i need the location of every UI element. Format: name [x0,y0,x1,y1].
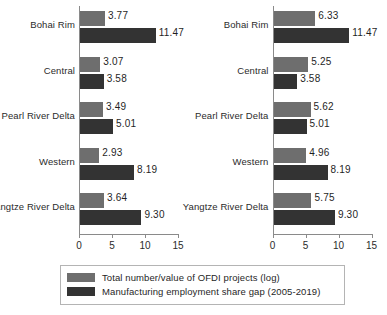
right-plot-area: 051015Bohai Rim6.3311.47Central5.253.58P… [194,0,387,258]
bar-ofdi [274,148,307,163]
bar-group: Pearl River Delta5.625.01 [194,97,387,141]
x-axis-tick-label: 15 [366,240,377,251]
category-label: Bohai Rim [224,19,269,30]
bar-ofdi [80,148,99,163]
left-plot-area: 051015Bohai Rim3.7711.47Central3.073.58P… [0,0,194,258]
category-label: Bohai Rim [30,19,75,30]
bar-ofdi [80,102,103,117]
bar-employment-gap [274,165,328,180]
x-axis-tick-label: 10 [139,240,150,251]
x-axis-tick-label: 0 [76,240,82,251]
bar-employment-gap [274,74,298,89]
legend-swatch-ofdi [67,273,95,282]
bar-ofdi [274,57,309,72]
bar-ofdi [80,11,105,26]
bar-value-label: 3.58 [300,73,320,84]
chart-legend: Total number/value of OFDI projects (log… [60,265,345,305]
bar-value-label: 8.19 [331,164,351,175]
bar-employment-gap [274,28,350,43]
bar-group: Western2.938.19 [0,143,194,187]
category-label: Pearl River Delta [195,110,269,121]
x-axis-tick-label: 5 [109,240,115,251]
bar-value-label: 8.19 [137,164,157,175]
right-panel: 051015Bohai Rim6.3311.47Central5.253.58P… [194,0,387,258]
bar-value-label: 3.49 [106,101,126,112]
bar-ofdi [274,193,312,208]
x-axis-tick [145,234,146,238]
bar-group: Yangtze River Delta5.759.30 [194,188,387,232]
bar-employment-gap [80,119,113,134]
x-axis-tick [112,234,113,238]
x-axis-tick-label: 5 [303,240,309,251]
legend-item-employment-gap: Manufacturing employment share gap (2005… [67,285,338,298]
x-axis-tick [339,234,340,238]
legend-swatch-employment-gap [67,287,95,296]
bar-employment-gap [274,119,307,134]
left-axis-horizontal [79,234,179,235]
bar-group: Bohai Rim6.3311.47 [194,6,387,50]
bar-group: Bohai Rim3.7711.47 [0,6,194,50]
bar-ofdi [80,193,104,208]
category-label: Western [39,156,75,167]
figure-caption [4,306,384,315]
chart-figure: 051015Bohai Rim3.7711.47Central3.073.58P… [0,0,387,315]
legend-label-ofdi: Total number/value of OFDI projects (log… [102,272,280,283]
bar-value-label: 3.58 [107,73,127,84]
bar-employment-gap [80,28,156,43]
category-label: Yangtze River Delta [0,201,75,212]
x-axis-tick [273,234,274,238]
bar-value-label: 6.33 [318,10,338,21]
bar-value-label: 11.47 [159,27,184,38]
bar-value-label: 3.07 [103,56,123,67]
bar-value-label: 9.30 [338,209,358,220]
category-label: Central [237,65,268,76]
bar-group: Pearl River Delta3.495.01 [0,97,194,141]
x-axis-tick-label: 15 [172,240,183,251]
category-label: Yangtze River Delta [183,201,269,212]
right-axis-horizontal [273,234,373,235]
category-label: Pearl River Delta [1,110,75,121]
bar-employment-gap [80,210,141,225]
bar-group: Central3.073.58 [0,52,194,96]
legend-label-employment-gap: Manufacturing employment share gap (2005… [102,286,320,297]
x-axis-tick [372,234,373,238]
bar-value-label: 9.30 [144,209,164,220]
bar-value-label: 5.01 [310,118,330,129]
bar-value-label: 2.93 [102,147,122,158]
bar-value-label: 5.01 [116,118,136,129]
category-label: Western [233,156,269,167]
legend-item-ofdi: Total number/value of OFDI projects (log… [67,271,338,284]
bar-group: Western4.968.19 [194,143,387,187]
bar-group: Central5.253.58 [194,52,387,96]
bar-ofdi [80,57,100,72]
x-axis-tick-label: 0 [270,240,276,251]
category-label: Central [44,65,75,76]
bar-employment-gap [80,74,104,89]
bar-employment-gap [274,210,335,225]
chart-panels: 051015Bohai Rim3.7711.47Central3.073.58P… [0,0,387,258]
bar-group: Yangtze River Delta3.649.30 [0,188,194,232]
bar-ofdi [274,102,311,117]
x-axis-tick-label: 10 [333,240,344,251]
bar-employment-gap [80,165,134,180]
bar-value-label: 5.75 [314,192,334,203]
bar-value-label: 4.96 [309,147,329,158]
x-axis-tick [306,234,307,238]
bar-value-label: 5.25 [311,56,331,67]
bar-value-label: 3.77 [108,10,128,21]
bar-value-label: 3.64 [107,192,127,203]
bar-value-label: 11.47 [352,27,377,38]
bar-ofdi [274,11,316,26]
x-axis-tick [178,234,179,238]
x-axis-tick [79,234,80,238]
bar-value-label: 5.62 [314,101,334,112]
left-panel: 051015Bohai Rim3.7711.47Central3.073.58P… [0,0,194,258]
